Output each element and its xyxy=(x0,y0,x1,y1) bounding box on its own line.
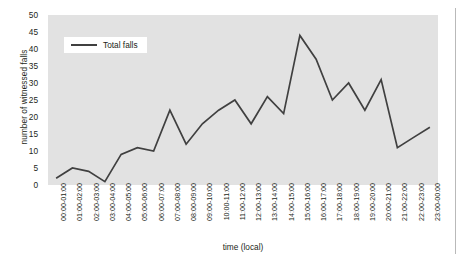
x-axis-tick-label: 18:00-19:00 xyxy=(353,183,361,241)
y-axis-tick-label: 40 xyxy=(0,45,38,53)
x-axis-tick-labels: 00:00-01:0001:00-02:0002:00-03:0003:00-0… xyxy=(48,185,438,243)
legend-label: Total falls xyxy=(103,40,138,50)
y-axis-tick-label: 25 xyxy=(0,96,38,104)
y-axis-tick-label: 5 xyxy=(0,164,38,172)
chart-legend: Total falls xyxy=(64,37,147,53)
legend-line-swatch xyxy=(71,44,97,46)
y-axis-tick-label: 20 xyxy=(0,113,38,121)
y-axis-tick-labels: 05101520253035404550 xyxy=(0,0,44,262)
x-axis-tick-label: 02:00-03:00 xyxy=(93,183,101,241)
y-axis-tick-label: 0 xyxy=(0,181,38,189)
x-axis-title: time (local) xyxy=(48,242,438,252)
y-axis-tick-label: 45 xyxy=(0,28,38,36)
x-axis-tick-label: 17:00-18:00 xyxy=(337,183,345,241)
x-axis-tick-label: 03:00-04:00 xyxy=(109,183,117,241)
y-axis-tick-label: 15 xyxy=(0,130,38,138)
x-axis-tick-label: 01:00-02:00 xyxy=(77,183,85,241)
x-axis-tick-label: 05:00-06:00 xyxy=(142,183,150,241)
x-axis-tick-label: 09:00-10:00 xyxy=(207,183,215,241)
x-axis-tick-label: 00:00-01:00 xyxy=(60,183,68,241)
x-axis-tick-label: 13:00-14:00 xyxy=(272,183,280,241)
x-axis-tick-label: 21:00-22:00 xyxy=(402,183,410,241)
x-axis-tick-label: 08:00-09:00 xyxy=(190,183,198,241)
x-axis-tick-label: 14:00-15:00 xyxy=(288,183,296,241)
x-axis-tick-label: 10:00-11:00 xyxy=(223,183,231,241)
x-axis-tick-label: 19:00-20:00 xyxy=(369,183,377,241)
page-divider-rule xyxy=(455,8,456,254)
x-axis-tick-label: 06:00-07:00 xyxy=(158,183,166,241)
x-axis-tick-label: 07:00-08:00 xyxy=(174,183,182,241)
chart-figure: number of witnessed falls 05101520253035… xyxy=(0,0,467,262)
x-axis-tick-label: 12:00-13:00 xyxy=(255,183,263,241)
y-axis-tick-label: 30 xyxy=(0,79,38,87)
x-axis-tick-label: 15:00-16:00 xyxy=(304,183,312,241)
x-axis-tick-label: 16:00-17:00 xyxy=(320,183,328,241)
x-axis-tick-label: 23:00-00:00 xyxy=(434,183,442,241)
x-axis-tick-label: 20:00-21:00 xyxy=(385,183,393,241)
y-axis-tick-label: 10 xyxy=(0,147,38,155)
x-axis-tick-label: 04:00-05:00 xyxy=(125,183,133,241)
x-axis-tick-label: 22:00-23:00 xyxy=(418,183,426,241)
total-falls-line xyxy=(56,35,430,181)
y-axis-tick-label: 50 xyxy=(0,11,38,19)
x-axis-tick-label: 11:00-12:00 xyxy=(239,183,247,241)
y-axis-tick-label: 35 xyxy=(0,62,38,70)
